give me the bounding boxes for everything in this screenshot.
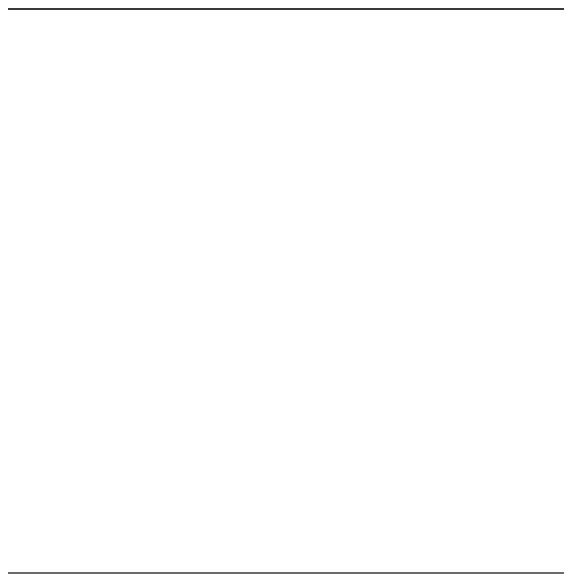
scatter-plot-area — [0, 0, 572, 580]
spss-scatterplot-page — [0, 0, 572, 580]
